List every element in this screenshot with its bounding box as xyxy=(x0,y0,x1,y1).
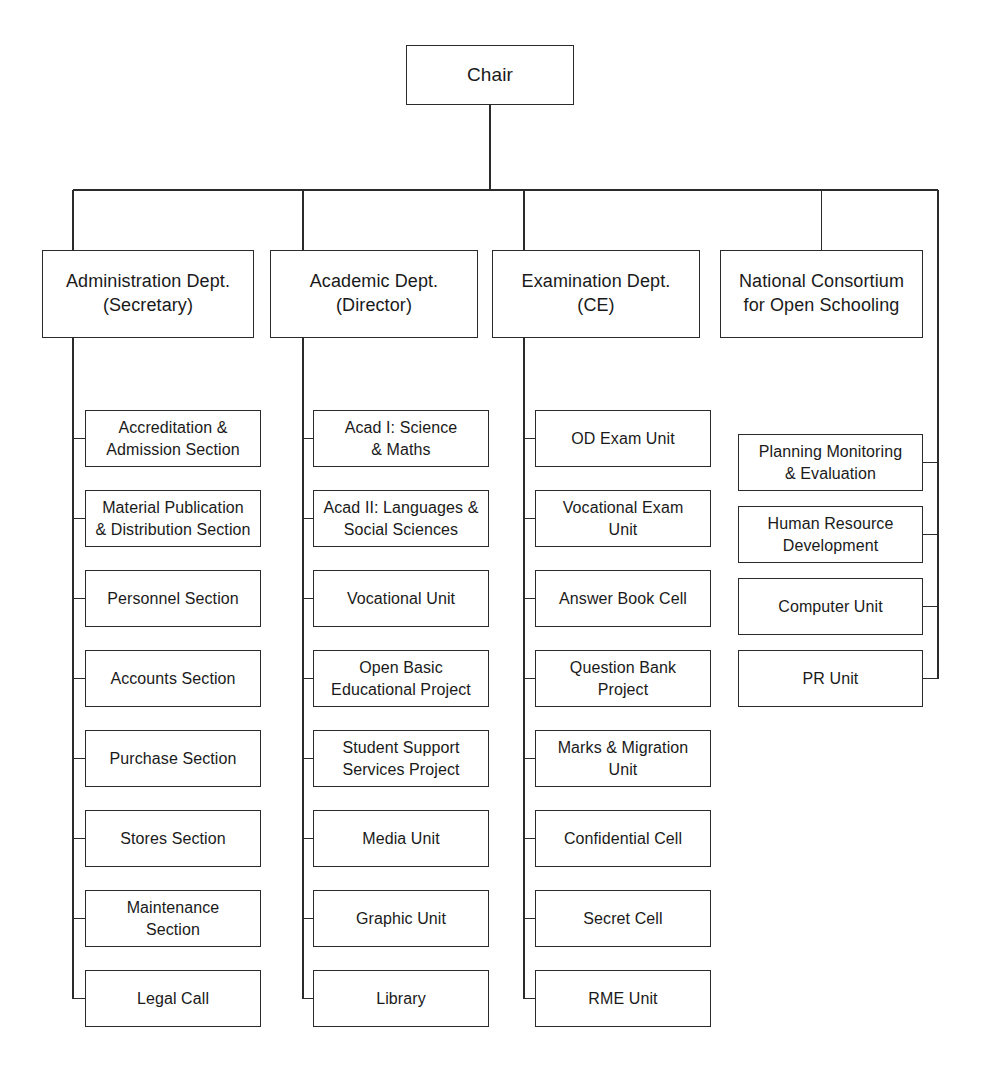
org-node-examination-child-6[interactable]: Secret Cell xyxy=(535,890,711,947)
org-node-academic-child-7[interactable]: Library xyxy=(313,970,489,1027)
org-node-examination-child-4[interactable]: Marks & Migration Unit xyxy=(535,730,711,787)
org-node-national-consortium-child-1[interactable]: Human Resource Development xyxy=(738,506,923,563)
org-node-administration-child-6[interactable]: Maintenance Section xyxy=(85,890,261,947)
org-chart: ChairAdministration Dept. (Secretary)Acc… xyxy=(0,0,985,1071)
org-node-administration-child-3[interactable]: Accounts Section xyxy=(85,650,261,707)
org-node-administration-child-5[interactable]: Stores Section xyxy=(85,810,261,867)
org-node-academic[interactable]: Academic Dept. (Director) xyxy=(270,250,478,338)
org-node-examination-child-1[interactable]: Vocational Exam Unit xyxy=(535,490,711,547)
org-node-national-consortium[interactable]: National Consortium for Open Schooling xyxy=(720,250,923,338)
org-node-examination-child-3[interactable]: Question Bank Project xyxy=(535,650,711,707)
org-node-administration-child-4[interactable]: Purchase Section xyxy=(85,730,261,787)
org-node-national-consortium-child-3[interactable]: PR Unit xyxy=(738,650,923,707)
org-node-academic-child-3[interactable]: Open Basic Educational Project xyxy=(313,650,489,707)
org-node-examination[interactable]: Examination Dept. (CE) xyxy=(492,250,700,338)
org-node-national-consortium-child-2[interactable]: Computer Unit xyxy=(738,578,923,635)
org-node-chair[interactable]: Chair xyxy=(406,45,574,105)
org-node-academic-child-4[interactable]: Student Support Services Project xyxy=(313,730,489,787)
org-node-examination-child-0[interactable]: OD Exam Unit xyxy=(535,410,711,467)
org-node-academic-child-5[interactable]: Media Unit xyxy=(313,810,489,867)
org-node-administration-child-2[interactable]: Personnel Section xyxy=(85,570,261,627)
org-node-administration[interactable]: Administration Dept. (Secretary) xyxy=(42,250,254,338)
org-node-academic-child-2[interactable]: Vocational Unit xyxy=(313,570,489,627)
org-node-academic-child-1[interactable]: Acad II: Languages & Social Sciences xyxy=(313,490,489,547)
org-node-academic-child-6[interactable]: Graphic Unit xyxy=(313,890,489,947)
org-node-examination-child-5[interactable]: Confidential Cell xyxy=(535,810,711,867)
org-node-national-consortium-child-0[interactable]: Planning Monitoring & Evaluation xyxy=(738,434,923,491)
org-node-examination-child-2[interactable]: Answer Book Cell xyxy=(535,570,711,627)
org-node-administration-child-7[interactable]: Legal Call xyxy=(85,970,261,1027)
org-node-academic-child-0[interactable]: Acad I: Science & Maths xyxy=(313,410,489,467)
org-node-examination-child-7[interactable]: RME Unit xyxy=(535,970,711,1027)
org-node-administration-child-0[interactable]: Accreditation & Admission Section xyxy=(85,410,261,467)
org-node-administration-child-1[interactable]: Material Publication & Distribution Sect… xyxy=(85,490,261,547)
